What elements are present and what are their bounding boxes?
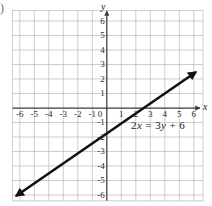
x-axis-label: x	[203, 101, 207, 112]
equation-var-y: y	[161, 119, 166, 131]
equation-plus: +	[169, 119, 176, 131]
y-tick-label: 2	[94, 74, 105, 84]
equation-annotation: 2x = 3y + 6	[131, 119, 185, 131]
y-tick-label: -4	[94, 161, 105, 171]
grid-horizontal-lines	[13, 11, 204, 201]
x-tick-label: 2	[131, 109, 141, 119]
equation-var-x: x	[137, 119, 142, 131]
x-tick-label: 1	[116, 109, 126, 119]
x-tick-label: 3	[145, 109, 155, 119]
x-tick-label: -3	[58, 109, 68, 119]
y-tick-label: 4	[94, 45, 105, 55]
y-tick-label: 5	[94, 30, 105, 40]
y-tick-label: -6	[94, 190, 105, 200]
x-tick-label: 5	[174, 109, 184, 119]
x-tick-label: -6	[15, 109, 25, 119]
graph-figure: )	[0, 0, 212, 206]
y-tick-label: 3	[94, 59, 105, 69]
y-axis-label: y	[101, 1, 105, 12]
equation-equals: =	[145, 119, 152, 131]
x-tick-label: -4	[44, 109, 54, 119]
grid-vertical-lines	[13, 10, 204, 201]
y-tick-label: -5	[94, 175, 105, 185]
y-tick-label: -2	[94, 132, 105, 142]
y-tick-label: 1	[94, 88, 105, 98]
plotted-line	[16, 72, 196, 196]
y-tick-label: -1	[94, 117, 105, 127]
y-tick-label: -3	[94, 146, 105, 156]
x-tick-label: 6	[189, 109, 199, 119]
x-tick-label: 4	[160, 109, 170, 119]
coordinate-plane	[0, 0, 212, 206]
y-tick-label: 6	[94, 16, 105, 26]
equation-constant: 6	[179, 119, 185, 131]
x-tick-label: -5	[29, 109, 39, 119]
x-tick-label: -2	[73, 109, 83, 119]
